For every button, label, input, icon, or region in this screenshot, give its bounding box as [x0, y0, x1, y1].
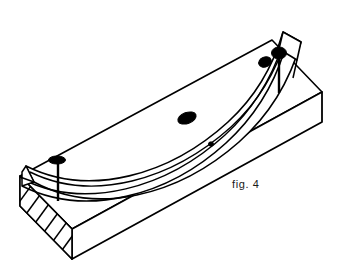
line-drawing-canvas	[0, 0, 341, 271]
tack-small	[208, 142, 213, 146]
nail-left-head	[49, 156, 66, 164]
nail-right-head	[272, 47, 287, 59]
figure-4-drawing: fig. 4	[0, 0, 341, 271]
figure-caption: fig. 4	[232, 178, 259, 190]
